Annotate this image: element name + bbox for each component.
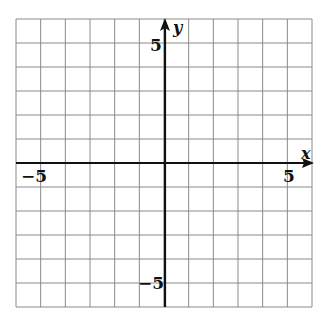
x-tick-label-neg5: −5 xyxy=(21,168,47,185)
y-tick-label-5: 5 xyxy=(150,37,162,54)
x-axis-label: x xyxy=(301,146,311,162)
y-axis-label: y xyxy=(173,20,182,36)
axes xyxy=(16,18,314,307)
y-tick-label-neg5: −5 xyxy=(138,275,164,292)
coordinate-plane xyxy=(0,0,330,321)
x-tick-label-5: 5 xyxy=(283,168,295,185)
